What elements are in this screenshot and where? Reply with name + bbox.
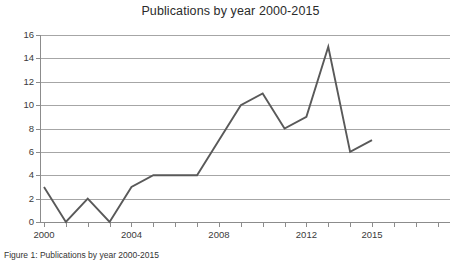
- publications-line: [44, 47, 372, 222]
- figure-caption: Figure 1: Publications by year 2000-2015: [4, 250, 159, 260]
